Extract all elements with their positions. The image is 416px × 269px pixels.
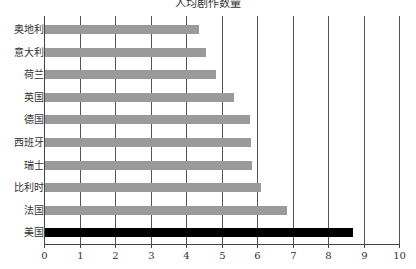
bar — [45, 70, 216, 79]
y-category-label: 法国 — [24, 205, 44, 217]
x-tick — [293, 244, 294, 248]
x-tick — [364, 244, 365, 248]
x-tick-label: 5 — [219, 250, 225, 262]
bar — [45, 206, 287, 215]
x-tick — [399, 244, 400, 248]
bar — [45, 138, 251, 147]
x-tick-label: 1 — [77, 250, 83, 262]
grid-line — [364, 16, 365, 244]
bar — [45, 93, 234, 102]
x-tick-label: 6 — [254, 250, 260, 262]
x-tick — [328, 244, 329, 248]
bar — [45, 48, 206, 57]
bar — [45, 228, 353, 237]
bar-chart: 人均剧作数量 奥地利意大利荷兰英国德国西班牙瑞士比利时法国美国 01234567… — [0, 0, 416, 269]
x-tick — [80, 244, 81, 248]
x-tick-label: 8 — [325, 250, 331, 262]
x-tick-label: 4 — [183, 250, 189, 262]
y-category-label: 美国 — [24, 227, 44, 239]
x-tick — [151, 244, 152, 248]
x-tick — [186, 244, 187, 248]
x-tick-label: 2 — [112, 250, 118, 262]
grid-line — [399, 16, 400, 244]
y-category-label: 德国 — [24, 114, 44, 126]
y-category-label: 奥地利 — [14, 24, 44, 36]
x-tick-label: 0 — [41, 250, 47, 262]
grid-line — [293, 16, 294, 244]
x-tick-label: 3 — [148, 250, 154, 262]
y-category-label: 比利时 — [14, 182, 44, 194]
chart-title: 人均剧作数量 — [0, 0, 416, 10]
bar — [45, 115, 250, 124]
y-axis-line — [44, 16, 45, 245]
bar — [45, 161, 252, 170]
x-tick-label: 9 — [361, 250, 367, 262]
x-tick — [115, 244, 116, 248]
x-tick-label: 10 — [393, 250, 406, 262]
bar — [45, 183, 261, 192]
grid-line — [328, 16, 329, 244]
x-tick — [44, 244, 45, 248]
x-tick — [257, 244, 258, 248]
y-category-label: 瑞士 — [24, 160, 44, 172]
y-category-label: 荷兰 — [24, 69, 44, 81]
y-category-label: 意大利 — [14, 47, 44, 59]
y-category-label: 西班牙 — [14, 137, 44, 149]
y-category-label: 英国 — [24, 92, 44, 104]
x-tick — [222, 244, 223, 248]
bar — [45, 25, 199, 34]
x-tick-label: 7 — [290, 250, 296, 262]
